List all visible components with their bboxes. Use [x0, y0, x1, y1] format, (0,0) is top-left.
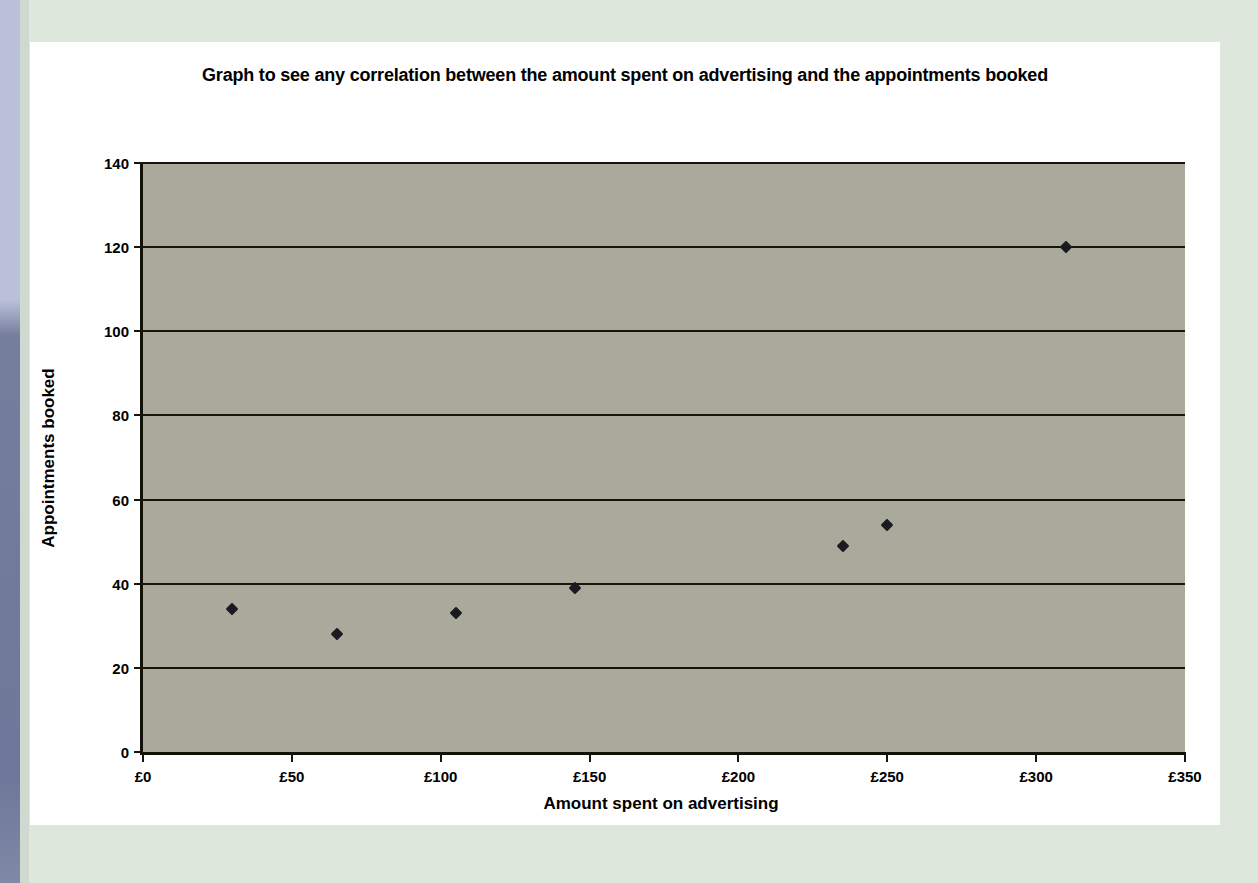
y-tick-label-120: 120: [104, 239, 129, 256]
y-tick-60: [134, 499, 143, 501]
x-axis-title: Amount spent on advertising: [140, 794, 1182, 814]
x-tick-label-250: £250: [871, 768, 904, 785]
data-point: [449, 607, 462, 620]
scan-edge-shadow: [0, 0, 20, 883]
plot-area: 020406080100120140 £0£50£100£150£200£250…: [140, 163, 1185, 755]
gridline-y-40: [143, 583, 1185, 585]
y-tick-100: [134, 330, 143, 332]
x-tick-label-300: £300: [1019, 768, 1052, 785]
y-tick-80: [134, 414, 143, 416]
plot-inner: 020406080100120140 £0£50£100£150£200£250…: [143, 163, 1185, 752]
scan-edge-inner: [20, 0, 29, 883]
x-tick-label-0: £0: [135, 768, 152, 785]
y-tick-label-100: 100: [104, 323, 129, 340]
y-axis-title: Appointments booked: [38, 163, 60, 752]
y-tick-label-40: 40: [112, 575, 129, 592]
x-tick-label-200: £200: [722, 768, 755, 785]
y-tick-120: [134, 246, 143, 248]
x-tick-300: [1035, 752, 1037, 762]
data-point: [1060, 241, 1073, 254]
scanned-page-background: Graph to see any correlation between the…: [0, 0, 1258, 883]
y-tick-label-20: 20: [112, 659, 129, 676]
x-tick-label-150: £150: [573, 768, 606, 785]
y-tick-40: [134, 583, 143, 585]
y-axis-title-text: Appointments booked: [39, 368, 59, 547]
data-point: [330, 628, 343, 641]
chart-card: Graph to see any correlation between the…: [30, 42, 1220, 825]
x-tick-50: [291, 752, 293, 762]
chart-title: Graph to see any correlation between the…: [105, 62, 1145, 88]
x-tick-350: [1184, 752, 1186, 762]
gridline-y-100: [143, 330, 1185, 332]
y-tick-label-140: 140: [104, 155, 129, 172]
data-point: [836, 539, 849, 552]
gridline-y-20: [143, 667, 1185, 669]
gridline-y-80: [143, 414, 1185, 416]
y-tick-20: [134, 667, 143, 669]
x-tick-0: [142, 752, 144, 762]
y-tick-label-0: 0: [121, 744, 129, 761]
x-tick-label-100: £100: [424, 768, 457, 785]
x-tick-label-350: £350: [1168, 768, 1201, 785]
y-tick-label-80: 80: [112, 407, 129, 424]
x-tick-150: [589, 752, 591, 762]
gridline-y-140: [143, 162, 1185, 164]
x-tick-250: [886, 752, 888, 762]
x-tick-label-50: £50: [279, 768, 304, 785]
y-tick-label-60: 60: [112, 491, 129, 508]
x-tick-100: [440, 752, 442, 762]
y-tick-140: [134, 162, 143, 164]
data-point: [881, 518, 894, 531]
gridline-y-120: [143, 246, 1185, 248]
x-tick-200: [737, 752, 739, 762]
data-point: [226, 603, 239, 616]
gridline-y-60: [143, 499, 1185, 501]
